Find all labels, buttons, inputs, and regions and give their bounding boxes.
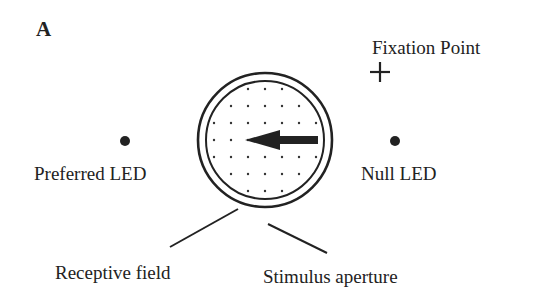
motion-arrow-icon — [245, 130, 318, 150]
null-led-label: Null LED — [361, 163, 436, 185]
preferred-led-label: Preferred LED — [34, 163, 146, 185]
stimulus-aperture-label: Stimulus aperture — [263, 266, 398, 288]
preferred-led-dot — [120, 136, 130, 146]
receptive-field-leader — [170, 209, 238, 247]
null-led-dot — [390, 136, 400, 146]
fixation-point-label: Fixation Point — [372, 37, 480, 59]
receptive-field-label: Receptive field — [55, 262, 171, 284]
fixation-cross-icon — [370, 62, 390, 82]
stimulus-aperture-leader — [268, 224, 327, 253]
